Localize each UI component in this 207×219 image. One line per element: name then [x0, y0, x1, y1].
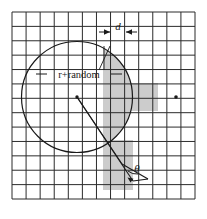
label-theta: θ — [134, 162, 140, 174]
diagram-svg: d r+random θ — [0, 0, 207, 219]
label-d: d — [115, 20, 121, 32]
shaded-band-extension — [103, 83, 158, 111]
label-r-random: r+random — [58, 69, 100, 80]
shaded-band-tail — [103, 140, 133, 190]
grid-point-dot — [174, 95, 178, 99]
diagram-canvas: d r+random θ — [0, 0, 207, 219]
